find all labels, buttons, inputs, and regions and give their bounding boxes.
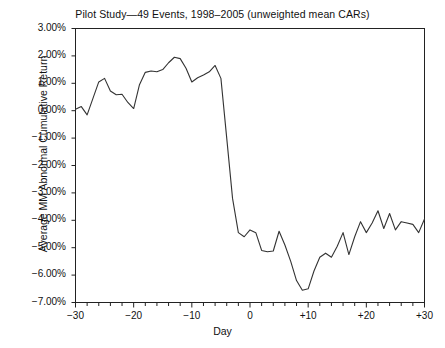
y-tick-label: −6.00% bbox=[8, 268, 66, 279]
y-tick-label: −4.00% bbox=[8, 213, 66, 224]
y-tick-label: −7.00% bbox=[8, 296, 66, 307]
x-tick-label: −10 bbox=[167, 310, 217, 321]
x-axis-ticks bbox=[76, 303, 425, 308]
x-tick-label: +20 bbox=[341, 310, 391, 321]
x-tick-label: −20 bbox=[109, 310, 159, 321]
x-tick-label: +30 bbox=[400, 310, 445, 321]
y-tick-label: 3.00% bbox=[8, 22, 66, 33]
x-tick-label: +10 bbox=[283, 310, 333, 321]
y-tick-label: 0.00% bbox=[8, 104, 66, 115]
plot-area bbox=[0, 0, 445, 348]
y-tick-label: 1.00% bbox=[8, 76, 66, 87]
y-tick-label: −2.00% bbox=[8, 159, 66, 170]
y-tick-label: 2.00% bbox=[8, 49, 66, 60]
y-tick-label: −5.00% bbox=[8, 241, 66, 252]
axis-frame bbox=[76, 29, 425, 303]
y-tick-label: −3.00% bbox=[8, 186, 66, 197]
y-tick-label: −1.00% bbox=[8, 131, 66, 142]
data-series-line bbox=[76, 57, 425, 290]
chart-figure: Pilot Study—49 Events, 1998–2005 (unweig… bbox=[0, 0, 445, 348]
x-tick-label: −30 bbox=[51, 310, 101, 321]
x-tick-label: 0 bbox=[225, 310, 275, 321]
y-axis-ticks bbox=[72, 29, 76, 303]
